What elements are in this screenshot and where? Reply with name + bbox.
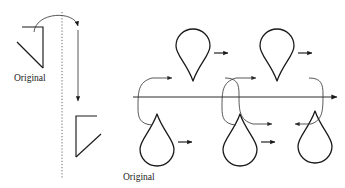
teardrop-original <box>140 114 174 166</box>
curved-connector-4 <box>295 78 323 124</box>
diagram-canvas: Original Original <box>0 0 345 188</box>
flag-original-shape <box>17 27 43 68</box>
original-label-right: Original <box>123 172 155 182</box>
symmetry-figure: Original Original <box>0 0 345 188</box>
teardrop-step-2 <box>176 29 210 81</box>
rotation-arc-arrow <box>34 15 78 32</box>
teardrop-step-5 <box>298 111 332 163</box>
flag-rotated-shape <box>76 116 101 157</box>
right-panel-group: Original <box>123 29 337 182</box>
original-label-left: Original <box>14 73 46 83</box>
teardrop-step-3 <box>223 114 257 166</box>
curved-connector-2 <box>225 78 272 124</box>
left-panel-group: Original <box>14 12 101 178</box>
teardrop-step-4 <box>260 29 294 81</box>
